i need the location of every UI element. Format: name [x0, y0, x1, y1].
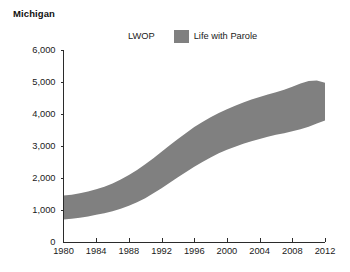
y-tick-label: 1,000: [32, 205, 55, 215]
x-axis-ticks: 198019841988199219962000200420082012: [53, 238, 335, 256]
chart-container: Michigan LWOP Life with Parole 01,0002,0…: [0, 0, 350, 272]
y-tick-label: 5,000: [32, 77, 55, 87]
x-tick-label: 2004: [249, 246, 270, 256]
x-tick-label: 1992: [151, 246, 172, 256]
area-band-life-sentences: [64, 80, 326, 219]
chart-plot-area: 01,0002,0003,0004,0005,0006,000 19801984…: [0, 0, 350, 272]
y-tick-label: 4,000: [32, 109, 55, 119]
y-axis-ticks: 01,0002,0003,0004,0005,0006,000: [32, 45, 63, 247]
x-tick-label: 1980: [53, 246, 74, 256]
x-tick-label: 2012: [315, 246, 336, 256]
x-tick-label: 2008: [282, 246, 303, 256]
x-tick-label: 1988: [119, 246, 140, 256]
y-tick-label: 3,000: [32, 141, 55, 151]
x-tick-label: 2000: [217, 246, 238, 256]
x-tick-label: 1996: [184, 246, 205, 256]
y-tick-label: 6,000: [32, 45, 55, 55]
x-tick-label: 1984: [86, 246, 107, 256]
y-tick-label: 2,000: [32, 173, 55, 183]
